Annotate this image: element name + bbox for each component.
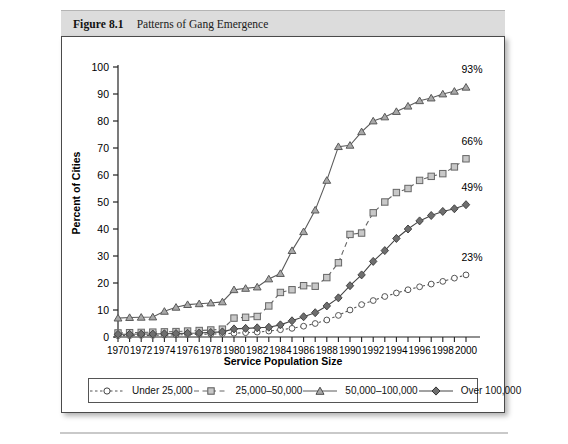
data-point-circle-icon [370, 298, 376, 304]
data-point-diamond-icon [288, 317, 295, 325]
y-tick-label: 60 [97, 169, 109, 181]
data-point-square-icon [242, 314, 248, 320]
y-tick-label: 100 [91, 61, 109, 73]
legend-label: Over 100,000 [461, 385, 522, 396]
y-tick-label: 10 [97, 304, 109, 316]
data-point-square-icon [289, 287, 295, 293]
data-point-square-icon [231, 315, 237, 321]
series-under-25-000: 23% [115, 251, 482, 339]
data-point-diamond-icon [462, 201, 469, 209]
data-point-square-icon [358, 230, 364, 236]
y-tick-label: 30 [97, 250, 109, 262]
data-point-square-icon [370, 210, 376, 216]
legend-key-circle-icon [89, 385, 125, 397]
y-axis-title: Percent of Cities [70, 123, 82, 263]
series-line [118, 205, 466, 335]
legend-label: 25,000–50,000 [236, 385, 303, 396]
y-tick-label: 90 [97, 88, 109, 100]
data-point-diamond-icon [451, 205, 458, 213]
legend-key-square-icon [193, 385, 229, 397]
x-axis-title: Service Population Size [62, 355, 504, 367]
series-end-label: 49% [461, 181, 482, 193]
series-line [118, 87, 466, 318]
figure-container: Figure 8.1 Patterns of Gang Emergence 01… [0, 0, 568, 444]
y-tick-label: 70 [97, 142, 109, 154]
figure-caption: Patterns of Gang Emergence [137, 18, 269, 30]
data-point-diamond-icon [439, 207, 446, 215]
data-point-circle-icon [428, 281, 434, 287]
data-point-square-icon [324, 274, 330, 280]
data-point-diamond-icon [323, 302, 330, 310]
legend-item-under-25000[interactable]: Under 25,000 [89, 385, 193, 397]
chart-panel: 0102030405060708090100197019721974197619… [61, 36, 505, 413]
series-over-100-000: 49% [114, 181, 482, 339]
data-point-circle-icon [359, 302, 365, 308]
series-end-label: 66% [461, 135, 482, 147]
series-line [118, 159, 466, 333]
data-point-circle-icon [289, 325, 295, 331]
data-point-diamond-icon [312, 309, 319, 317]
data-point-square-icon [416, 177, 422, 183]
bottom-divider [60, 432, 508, 434]
data-point-square-icon [463, 156, 469, 162]
data-point-circle-icon [301, 323, 307, 329]
data-point-circle-icon [324, 317, 330, 323]
data-point-circle-icon [417, 284, 423, 290]
data-point-triangle-icon [277, 270, 285, 277]
y-tick-label: 0 [103, 331, 109, 343]
legend-label: Under 25,000 [132, 385, 193, 396]
data-point-square-icon [440, 170, 446, 176]
series-25-000-50-000: 66% [115, 135, 483, 336]
legend-item-over-100000[interactable]: Over 100,000 [418, 385, 522, 397]
data-point-circle-icon [440, 278, 446, 284]
data-point-circle-icon [382, 294, 388, 300]
data-point-circle-icon [312, 321, 318, 327]
data-point-triangle-icon [462, 84, 470, 91]
y-tick-label: 50 [97, 196, 109, 208]
data-point-triangle-icon [323, 177, 331, 184]
legend-label: 50,000–100,000 [345, 385, 417, 396]
data-point-square-icon [405, 185, 411, 191]
data-point-triangle-icon [288, 247, 296, 254]
data-point-triangle-icon [393, 108, 401, 115]
legend-item-50000-100000[interactable]: 50,000–100,000 [302, 385, 417, 397]
chart-legend: Under 25,000 25,000–50,000 50,000–100,00… [88, 378, 478, 403]
data-point-circle-icon [394, 290, 400, 296]
data-point-diamond-icon [428, 212, 435, 220]
data-point-square-icon [312, 283, 318, 289]
series-end-label: 23% [461, 251, 482, 263]
series-50-000-100-000: 93% [114, 63, 482, 321]
chart-area: 0102030405060708090100197019721974197619… [62, 37, 504, 412]
figure-number: Figure 8.1 [73, 18, 124, 30]
data-point-triangle-icon [404, 102, 412, 109]
data-point-square-icon [266, 303, 272, 309]
data-point-square-icon [277, 289, 283, 295]
data-point-circle-icon [347, 307, 353, 313]
y-tick-label: 80 [97, 115, 109, 127]
y-tick-label: 40 [97, 223, 109, 235]
data-point-square-icon [451, 164, 457, 170]
data-point-triangle-icon [381, 113, 389, 120]
data-point-square-icon [393, 189, 399, 195]
data-point-circle-icon [452, 275, 458, 281]
data-point-triangle-icon [265, 275, 273, 282]
data-point-square-icon [428, 173, 434, 179]
legend-key-diamond-icon [418, 385, 454, 397]
data-point-triangle-icon [311, 206, 319, 213]
data-point-triangle-icon [253, 283, 261, 290]
series-end-label: 93% [461, 63, 482, 75]
y-tick-label: 20 [97, 277, 109, 289]
legend-key-triangle-icon [302, 385, 338, 397]
data-point-circle-icon [463, 272, 469, 278]
figure-title-band: Figure 8.1 Patterns of Gang Emergence [61, 10, 505, 37]
data-point-square-icon [347, 231, 353, 237]
data-point-square-icon [254, 313, 260, 319]
data-point-square-icon [335, 260, 341, 266]
data-point-square-icon [300, 283, 306, 289]
data-point-triangle-icon [300, 228, 308, 235]
legend-item-25000-50000[interactable]: 25,000–50,000 [193, 385, 303, 397]
data-point-square-icon [382, 199, 388, 205]
line-chart: 0102030405060708090100197019721974197619… [62, 37, 504, 357]
data-point-diamond-icon [416, 217, 423, 225]
data-point-diamond-icon [300, 313, 307, 321]
